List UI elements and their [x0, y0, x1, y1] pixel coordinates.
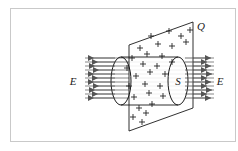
charged-plane: [129, 22, 193, 131]
label-charge-Q: Q: [197, 20, 205, 32]
label-surface-S: S: [175, 75, 181, 87]
label-field-right-E: E: [216, 75, 224, 87]
figure-diagram: Q S E E: [0, 0, 238, 151]
figure-root: Q S E E: [0, 0, 238, 151]
label-field-left-E: E: [69, 75, 77, 87]
field-arrows-left: [88, 58, 115, 98]
